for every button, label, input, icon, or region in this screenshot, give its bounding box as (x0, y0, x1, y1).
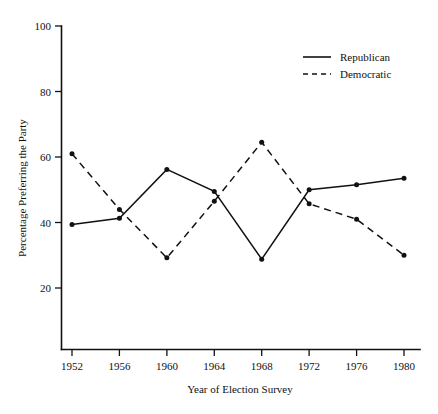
x-axis-ticks: 1952 1956 1960 1964 1968 1972 1976 1980 (61, 350, 416, 373)
data-point-democratic-1976 (354, 217, 359, 222)
data-point-republican-1972 (307, 187, 312, 192)
series-line-republican (72, 169, 404, 259)
x-tick-label-1976: 1976 (346, 360, 369, 372)
y-tick-label-20: 20 (40, 282, 52, 294)
y-axis-ticks: 100 80 60 40 20 (35, 20, 62, 294)
data-point-democratic-1960 (164, 255, 169, 260)
legend-label-democratic: Democratic (340, 68, 391, 80)
data-point-democratic-1980 (402, 253, 407, 258)
data-point-democratic-1956 (117, 207, 122, 212)
y-tick-label-40: 40 (40, 217, 52, 229)
data-point-republican-1960 (164, 167, 169, 172)
series-line-democratic (72, 142, 404, 258)
data-point-democratic-1964 (212, 199, 217, 204)
y-tick-label-100: 100 (35, 20, 52, 32)
y-axis-title: Percentage Preferring the Party (16, 119, 28, 257)
x-tick-label-1960: 1960 (156, 360, 179, 372)
data-point-republican-1964 (212, 189, 217, 194)
y-tick-label-60: 60 (40, 151, 52, 163)
data-point-republican-1976 (354, 182, 359, 187)
data-point-democratic-1968 (259, 140, 264, 145)
y-tick-label-80: 80 (40, 86, 52, 98)
data-point-democratic-1972 (307, 201, 312, 206)
data-point-republican-1980 (402, 176, 407, 181)
x-tick-label-1980: 1980 (393, 360, 416, 372)
x-tick-label-1956: 1956 (108, 360, 131, 372)
x-tick-label-1972: 1972 (298, 360, 320, 372)
x-tick-label-1964: 1964 (203, 360, 226, 372)
legend-label-republican: Republican (340, 51, 391, 63)
data-series-layer (70, 140, 407, 262)
line-chart-figure: 100 80 60 40 20 1952 1956 1960 1964 1968… (0, 0, 438, 414)
x-tick-label-1952: 1952 (61, 360, 83, 372)
data-point-republican-1956 (117, 216, 122, 221)
x-tick-label-1968: 1968 (251, 360, 274, 372)
data-point-republican-1952 (70, 222, 75, 227)
x-axis-title: Year of Election Survey (187, 383, 293, 395)
data-point-republican-1968 (259, 257, 264, 262)
chart-container: 100 80 60 40 20 1952 1956 1960 1964 1968… (0, 0, 438, 414)
legend: Republican Democratic (303, 51, 391, 80)
data-point-democratic-1952 (70, 151, 75, 156)
